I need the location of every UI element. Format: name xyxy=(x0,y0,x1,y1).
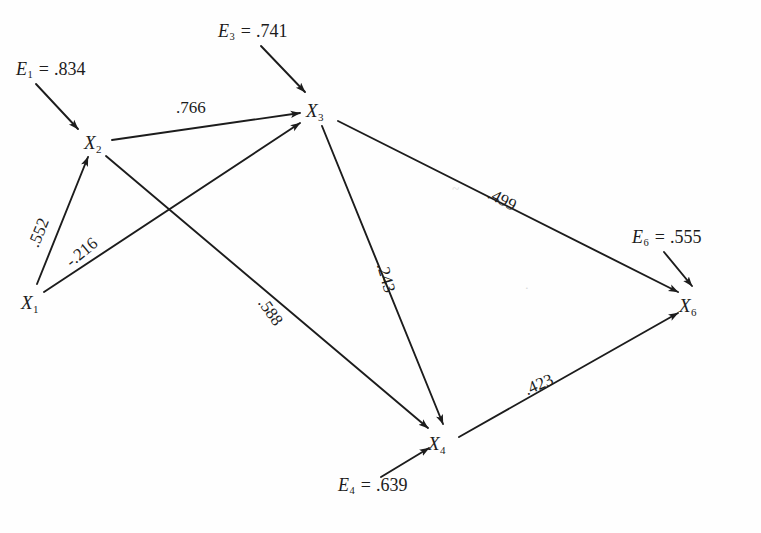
error-sub-e1: 1 xyxy=(27,69,33,80)
edge-E6-to-X6 xyxy=(664,252,692,286)
edge-E3-to-X3 xyxy=(261,46,305,92)
node-var-x3: X xyxy=(306,100,318,121)
error-equals-e6: = xyxy=(649,227,670,247)
error-value-e3: .741 xyxy=(256,21,288,41)
node-var-x2: X xyxy=(84,132,96,153)
error-equals-e1: = xyxy=(33,59,54,79)
node-var-x6: X xyxy=(679,295,691,316)
node-var-x1: X xyxy=(21,292,33,313)
path-diagram-canvas: X1 X2 X3 X4 X6 E1=.834 E3=.741 E6=.555 E… xyxy=(0,0,761,533)
coefficient-x2-x3: .766 xyxy=(176,99,206,116)
node-sub-x4: 4 xyxy=(440,444,446,456)
scan-artifact-smudge-1: ~ xyxy=(452,182,459,195)
error-sub-e4: 4 xyxy=(349,485,355,496)
scan-artifact-smudge-2: · xyxy=(525,281,528,294)
error-value-e4: .639 xyxy=(376,475,408,495)
error-label-e6: E6=.555 xyxy=(632,228,701,249)
node-label-x4: X4 xyxy=(428,434,446,456)
error-value-e6: .555 xyxy=(670,227,702,247)
node-var-x4: X xyxy=(428,433,440,454)
error-var-e4: E xyxy=(338,475,349,495)
edge-X1-to-X3 xyxy=(44,123,300,292)
edge-X4-to-X6 xyxy=(459,313,678,437)
error-sub-e3: 3 xyxy=(229,31,235,42)
error-equals-e3: = xyxy=(235,21,256,41)
error-var-e1: E xyxy=(16,59,27,79)
node-sub-x1: 1 xyxy=(33,303,39,315)
node-sub-x3: 3 xyxy=(318,111,324,123)
error-var-e3: E xyxy=(218,21,229,41)
error-value-e1: .834 xyxy=(54,59,86,79)
node-label-x6: X6 xyxy=(679,296,697,318)
error-sub-e6: 6 xyxy=(643,237,649,248)
edge-E4-to-X4 xyxy=(381,448,429,477)
node-label-x1: X1 xyxy=(21,293,39,315)
node-sub-x6: 6 xyxy=(691,306,697,318)
error-var-e6: E xyxy=(632,227,643,247)
error-label-e4: E4=.639 xyxy=(338,476,407,497)
edge-E1-to-X2 xyxy=(36,84,78,129)
node-sub-x2: 2 xyxy=(96,143,102,155)
node-label-x2: X2 xyxy=(84,133,102,155)
error-equals-e4: = xyxy=(355,475,376,495)
node-label-x3: X3 xyxy=(306,101,324,123)
error-label-e3: E3=.741 xyxy=(218,22,287,43)
error-label-e1: E1=.834 xyxy=(16,60,85,81)
edge-X2-to-X3 xyxy=(112,113,300,140)
